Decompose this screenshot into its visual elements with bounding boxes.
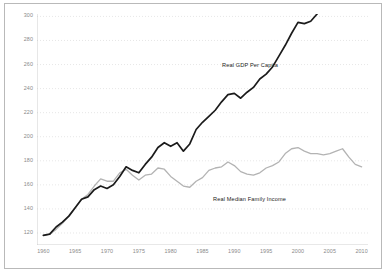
chart-figure: 120140160180200220240260280300 196019651… (0, 0, 386, 273)
y-tick-label-220: 220 (24, 110, 33, 115)
x-tick-label-1985: 1985 (196, 249, 208, 254)
y-tick-label-200: 200 (24, 134, 33, 139)
x-tick-label-2010: 2010 (355, 249, 367, 254)
y-tick-label-160: 160 (24, 182, 33, 187)
y-tick-label-180: 180 (24, 158, 33, 163)
x-tick-label-2005: 2005 (324, 249, 336, 254)
x-tick-label-2000: 2000 (292, 249, 304, 254)
y-tick-label-140: 140 (24, 206, 33, 211)
x-tick-label-1965: 1965 (69, 249, 81, 254)
plot-area (37, 14, 368, 245)
gridlines (37, 16, 368, 233)
plot-svg (37, 14, 368, 245)
x-tick-label-1975: 1975 (133, 249, 145, 254)
axis-lines (37, 14, 368, 245)
x-tick-label-1970: 1970 (101, 249, 113, 254)
y-tick-label-280: 280 (24, 38, 33, 43)
x-tick-label-1995: 1995 (260, 249, 272, 254)
y-axis: 120140160180200220240260280300 (0, 0, 33, 273)
y-tick-label-120: 120 (24, 230, 33, 235)
x-tick-label-1980: 1980 (164, 249, 176, 254)
y-tick-label-300: 300 (24, 14, 33, 19)
y-tick-label-260: 260 (24, 62, 33, 67)
x-tick-label-1960: 1960 (37, 249, 49, 254)
series-label-real-gdp-per-capita: Real GDP Per Capita (222, 63, 278, 69)
series-line-real-gdp-per-capita (43, 14, 361, 235)
x-tick-label-1990: 1990 (228, 249, 240, 254)
y-tick-label-240: 240 (24, 86, 33, 91)
x-axis: 1960196519701975198019851990199520002005… (0, 249, 386, 263)
series-label-real-median-family-income: Real Median Family Income (213, 197, 286, 203)
data-series (43, 14, 361, 235)
